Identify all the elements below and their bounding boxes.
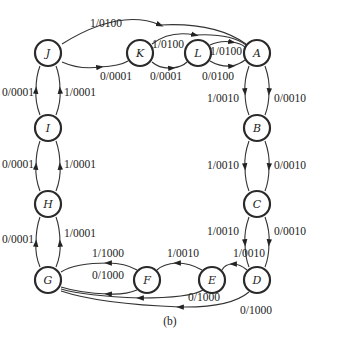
edge-D-E: [233, 264, 247, 270]
label-E-F: 1/0010: [167, 247, 199, 259]
edge-H-I-1: [56, 166, 60, 191]
label-A-B-0: 0/0010: [274, 92, 306, 104]
label-C-D-0: 0/0010: [274, 225, 306, 237]
state-diagram: 1/0100 0/0001 1/0100 0/0001 1/0100 0/010…: [0, 0, 358, 345]
svg-text:L: L: [193, 47, 201, 60]
svg-text:G: G: [44, 274, 53, 287]
label-A-B-1: 1/0010: [207, 92, 239, 104]
label-K-A: 1/0100: [152, 38, 184, 50]
edge-F-G-0: [108, 290, 137, 294]
state-node-A: A: [244, 40, 270, 66]
label-K-L: 0/0001: [150, 70, 182, 82]
svg-text:I: I: [45, 122, 51, 135]
edge-J-K: [62, 62, 100, 68]
label-B-C-1: 1/0010: [207, 159, 239, 171]
label-F-G-0: 0/1000: [92, 269, 124, 281]
state-node-K: K: [127, 40, 153, 66]
svg-text:H: H: [42, 198, 53, 211]
edge-A-B-1: [245, 66, 249, 92]
edge-I-J-0: [36, 90, 40, 115]
edge-G-H-1: [56, 243, 60, 267]
figure-caption: (b): [163, 315, 177, 328]
label-L-A-0: 0/0100: [202, 70, 234, 82]
svg-text:B: B: [252, 122, 261, 135]
edge-I-J-1: [56, 90, 60, 115]
label-D-E: 1/0010: [233, 247, 265, 259]
state-node-G: G: [35, 267, 61, 293]
edge-H-I-0: [36, 166, 40, 191]
edge-K-L: [152, 62, 172, 68]
state-node-L: L: [185, 40, 211, 66]
svg-text:J: J: [44, 47, 51, 60]
edge-E-F: [177, 263, 202, 270]
state-node-C: C: [244, 191, 270, 217]
edge-L-A-0: [210, 61, 232, 66]
state-node-D: D: [244, 267, 270, 293]
state-node-I: I: [35, 115, 61, 141]
state-node-J: J: [35, 40, 61, 66]
label-G-H-0: 0/0001: [2, 233, 34, 245]
svg-text:C: C: [253, 198, 262, 211]
svg-text:E: E: [207, 274, 216, 287]
label-J-A: 1/0100: [90, 17, 122, 29]
state-node-E: E: [199, 267, 225, 293]
edge-A-B-0: [265, 66, 269, 92]
label-F-G-1: 1/1000: [92, 247, 124, 259]
state-node-F: F: [134, 267, 160, 293]
label-J-K: 0/0001: [100, 70, 132, 82]
svg-text:F: F: [142, 274, 151, 287]
edge-C-D-1: [245, 217, 249, 243]
label-H-I-1: 1/0001: [64, 158, 96, 170]
label-G-H-1: 1/0001: [64, 227, 96, 239]
label-I-J-1: 1/0001: [64, 86, 96, 98]
edge-C-D-0: [265, 217, 269, 243]
label-H-I-0: 0/0001: [2, 158, 34, 170]
svg-text:A: A: [252, 47, 261, 60]
label-I-J-0: 0/0001: [2, 86, 34, 98]
label-L-A-1: 1/0100: [210, 45, 242, 57]
state-node-B: B: [244, 115, 270, 141]
svg-text:K: K: [135, 47, 145, 60]
edge-G-H-0: [36, 243, 40, 267]
state-node-H: H: [35, 191, 61, 217]
svg-text:D: D: [252, 274, 262, 287]
edge-B-C-0: [265, 141, 269, 167]
label-D-G: 0/1000: [240, 304, 272, 316]
label-C-D-1: 1/0010: [207, 225, 239, 237]
edge-B-C-1: [245, 141, 249, 167]
label-B-C-0: 0/0010: [274, 159, 306, 171]
